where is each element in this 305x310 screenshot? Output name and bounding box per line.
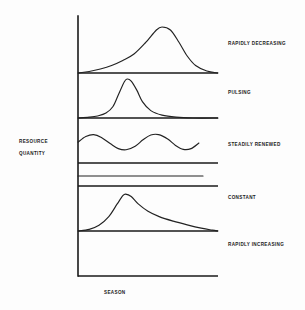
resource-quantity-figure: RESOURCE QUANTITY SEASON RAPIDLY DECREAS…	[0, 0, 305, 310]
curve-steadily-renewed	[78, 134, 199, 150]
curve-pulsing	[78, 79, 218, 118]
curve-rapidly-increasing	[78, 194, 218, 231]
panel-label-constant: CONSTANT	[228, 196, 256, 201]
panel-label-steadily-renewed: STEADILY RENEWED	[228, 143, 281, 148]
y-axis-title-line-2: QUANTITY	[19, 152, 48, 157]
panel-label-pulsing: PULSING	[228, 91, 251, 96]
curve-rapidly-decreasing	[78, 27, 218, 73]
x-axis-title: SEASON	[104, 291, 126, 296]
panel-label-rapidly-increasing: RAPIDLY INCREASING	[228, 243, 284, 248]
panel-label-rapidly-decreasing: RAPIDLY DECREASING	[228, 42, 286, 47]
y-axis-title-line-1: RESOURCE	[19, 140, 48, 145]
y-axis-title: RESOURCE QUANTITY	[19, 140, 48, 156]
